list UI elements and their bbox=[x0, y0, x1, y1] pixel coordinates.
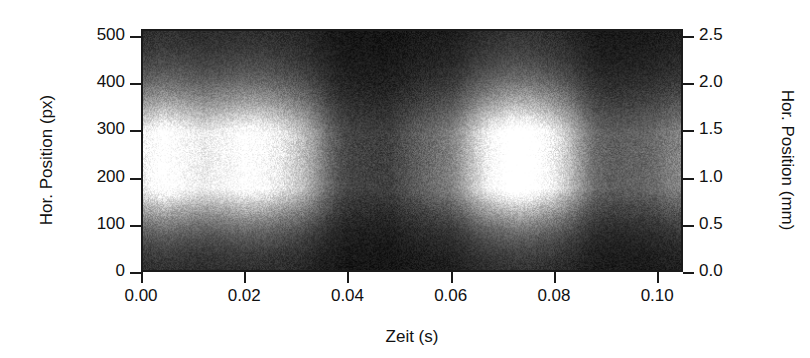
x-axis-title: Zeit (s) bbox=[141, 327, 683, 347]
x-tick-label: 0.06 bbox=[411, 286, 491, 306]
tick-mark bbox=[683, 272, 694, 274]
tick-mark bbox=[244, 272, 246, 283]
x-axis: 0.000.020.040.060.080.10 bbox=[141, 272, 683, 332]
y-tick-label-left: 500 bbox=[41, 25, 125, 45]
tick-mark bbox=[347, 272, 349, 283]
tick-mark bbox=[130, 83, 141, 85]
tick-mark bbox=[130, 178, 141, 180]
tick-mark bbox=[683, 36, 694, 38]
y-tick-label-right: 0.5 bbox=[699, 214, 723, 234]
y-tick-label-right: 2.0 bbox=[699, 72, 723, 92]
tick-mark bbox=[130, 130, 141, 132]
heatmap-image bbox=[143, 31, 681, 270]
figure-root: 5004003002001000 Hor. Position (px) 2.52… bbox=[0, 0, 810, 358]
tick-mark bbox=[683, 130, 694, 132]
y-axis-left-title: Hor. Position (px) bbox=[37, 45, 57, 275]
y-axis-right: 2.52.01.51.00.50.0 bbox=[683, 29, 783, 272]
plot-area bbox=[141, 29, 683, 272]
y-tick-label-right: 0.0 bbox=[699, 261, 723, 281]
tick-mark bbox=[657, 272, 659, 283]
y-axis-right-title: Hor. Position (mm) bbox=[777, 45, 797, 275]
tick-mark bbox=[130, 272, 141, 274]
x-tick-label: 0.08 bbox=[514, 286, 594, 306]
tick-mark bbox=[683, 225, 694, 227]
x-tick-label: 0.00 bbox=[101, 286, 181, 306]
y-tick-label-right: 2.5 bbox=[699, 25, 723, 45]
x-tick-label: 0.02 bbox=[204, 286, 284, 306]
x-tick-label: 0.10 bbox=[617, 286, 697, 306]
tick-mark bbox=[130, 36, 141, 38]
y-tick-label-right: 1.0 bbox=[699, 167, 723, 187]
tick-mark bbox=[451, 272, 453, 283]
tick-mark bbox=[683, 83, 694, 85]
tick-mark bbox=[141, 272, 143, 283]
tick-mark bbox=[683, 178, 694, 180]
x-tick-label: 0.04 bbox=[307, 286, 387, 306]
y-tick-label-right: 1.5 bbox=[699, 119, 723, 139]
tick-mark bbox=[554, 272, 556, 283]
tick-mark bbox=[130, 225, 141, 227]
